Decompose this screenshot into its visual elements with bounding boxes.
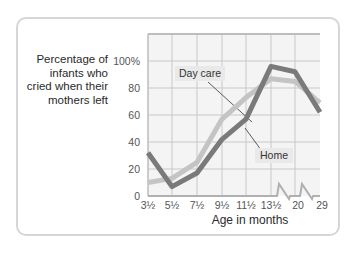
y-tick-labels: 100% 80 60 40 20 0 xyxy=(113,55,140,202)
svg-text:40: 40 xyxy=(128,136,140,148)
svg-text:5½: 5½ xyxy=(165,199,180,211)
svg-text:7½: 7½ xyxy=(190,199,205,211)
svg-text:20: 20 xyxy=(292,199,304,211)
day-care-label: Day care xyxy=(179,67,221,79)
x-tick-labels: 3½ 5½ 7½ 9½ 11½ 13½ 20 29 xyxy=(141,199,328,211)
svg-text:0: 0 xyxy=(134,190,140,202)
svg-text:29: 29 xyxy=(316,199,328,211)
svg-text:20: 20 xyxy=(128,163,140,175)
home-label: Home xyxy=(260,149,288,161)
svg-text:80: 80 xyxy=(128,82,140,94)
svg-text:3½: 3½ xyxy=(141,199,156,211)
svg-text:60: 60 xyxy=(128,109,140,121)
svg-text:100%: 100% xyxy=(113,55,140,67)
svg-text:13½: 13½ xyxy=(261,199,282,211)
svg-text:11½: 11½ xyxy=(236,199,256,211)
svg-text:9½: 9½ xyxy=(215,199,230,211)
x-axis-label: Age in months xyxy=(170,213,330,227)
